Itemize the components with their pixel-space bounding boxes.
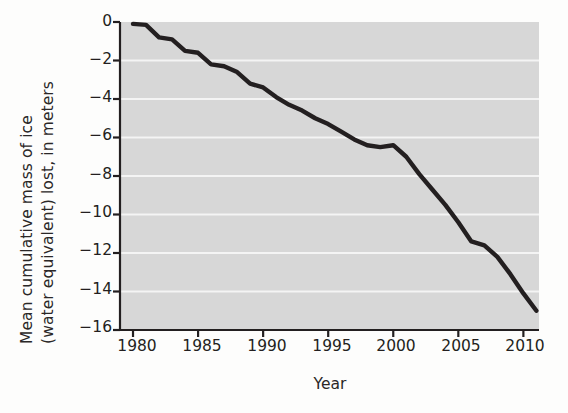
plot-background-group bbox=[120, 22, 539, 330]
chart-figure: Mean cumulative mass of ice (water equiv… bbox=[0, 0, 568, 413]
plot-area bbox=[0, 0, 568, 413]
